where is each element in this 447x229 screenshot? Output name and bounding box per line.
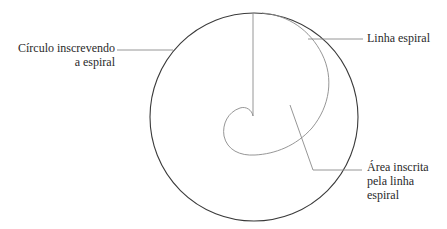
label-circle-line2: a espiral bbox=[18, 55, 115, 69]
spiral-diagram: Círculo inscrevendo a espiral Linha espi… bbox=[0, 0, 447, 229]
label-circle-line1: Círculo inscrevendo bbox=[18, 41, 115, 55]
label-spiral-line: Linha espiral bbox=[367, 31, 430, 45]
leader-line-area bbox=[290, 105, 362, 170]
spiral-line bbox=[224, 13, 329, 155]
label-inscribed-area: Área inscrita pela linha espiral bbox=[367, 160, 429, 202]
label-area-line2: pela linha bbox=[367, 174, 429, 188]
label-area-line1: Área inscrita bbox=[367, 160, 429, 174]
label-area-line3: espiral bbox=[367, 188, 429, 202]
label-inscribing-circle: Círculo inscrevendo a espiral bbox=[18, 41, 115, 69]
label-spiral-line1: Linha espiral bbox=[367, 31, 430, 45]
inscribing-circle bbox=[150, 13, 358, 221]
